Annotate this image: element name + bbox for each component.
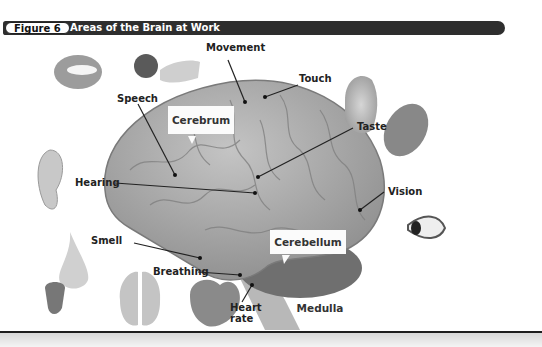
ear-illustration — [38, 150, 63, 209]
label-heart-rate-line1: Heart — [230, 302, 262, 313]
label-hearing: Hearing — [75, 177, 120, 188]
label-speech: Speech — [117, 93, 158, 104]
brain-illustration — [0, 0, 542, 347]
figure-title: Areas of the Brain at Work — [70, 21, 220, 35]
label-taste: Taste — [357, 121, 387, 132]
figure-header-bar: Figure 6 Areas of the Brain at Work — [3, 21, 505, 35]
label-movement: Movement — [206, 42, 265, 53]
ball-illustration — [134, 54, 158, 78]
label-heart-rate-line2: rate — [230, 313, 262, 324]
label-medulla: Medulla — [290, 296, 350, 320]
label-breathing: Breathing — [153, 266, 209, 277]
lungs-illustration — [120, 272, 138, 326]
label-vision: Vision — [388, 186, 422, 197]
label-heart-rate: Heart rate — [230, 302, 262, 324]
callout-cerebrum: Cerebrum — [168, 106, 234, 134]
label-touch: Touch — [299, 73, 332, 84]
bottom-shade — [0, 333, 542, 347]
hand-illustration — [160, 60, 200, 82]
flower-illustration — [45, 282, 65, 314]
callout-cerebellum: Cerebellum — [270, 230, 346, 254]
figure-number-badge: Figure 6 — [5, 22, 70, 34]
label-smell: Smell — [91, 235, 122, 246]
nose-illustration — [59, 232, 88, 289]
